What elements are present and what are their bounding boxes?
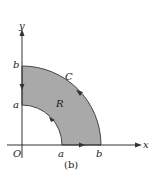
x-outer-label: b — [96, 148, 102, 159]
y-outer-label: b — [13, 59, 19, 70]
x-inner-label: a — [58, 148, 64, 159]
region-label: R — [55, 98, 64, 109]
y-inner-label: a — [13, 99, 19, 110]
x-axis-label: x — [143, 139, 149, 150]
annulus-quarter-diagram: y x b a O a b R C (b) — [0, 0, 156, 180]
x-axis-arrow-icon — [135, 143, 142, 148]
curve-label: C — [65, 71, 73, 82]
figure-caption: (b) — [64, 159, 78, 170]
y-axis-label: y — [18, 20, 25, 31]
origin-label: O — [13, 148, 21, 159]
